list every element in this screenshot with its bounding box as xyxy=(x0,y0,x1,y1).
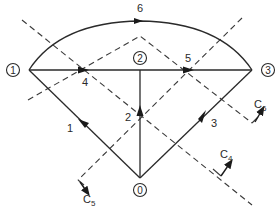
svg-text:3: 3 xyxy=(265,65,271,76)
edge-label-4: 4 xyxy=(82,76,88,88)
edge-label-5: 5 xyxy=(185,52,191,64)
edge-2 xyxy=(137,70,144,178)
svg-text:1: 1 xyxy=(10,65,16,76)
edge-5 xyxy=(140,67,252,74)
cut-label-c4: C4 xyxy=(220,148,233,163)
cut-c4 xyxy=(22,20,252,205)
cut-label-c6: C6 xyxy=(254,98,267,113)
node-1: 1 xyxy=(7,64,20,77)
edge-label-1: 1 xyxy=(67,122,73,134)
svg-text:0: 0 xyxy=(137,185,143,196)
node-3: 3 xyxy=(262,64,275,77)
edge-label-2: 2 xyxy=(125,111,131,123)
cut-c5 xyxy=(78,18,242,192)
node-0: 0 xyxy=(134,184,147,197)
node-2: 2 xyxy=(134,52,147,65)
svg-text:2: 2 xyxy=(137,53,143,64)
cut-label-c5: C5 xyxy=(83,193,96,208)
edge-label-6: 6 xyxy=(137,2,143,14)
edge-label-3: 3 xyxy=(211,117,217,129)
network-diagram: 1 2 3 0 6 4 5 2 1 3 C6 C4 C5 xyxy=(0,0,279,211)
edge-3 xyxy=(140,70,252,178)
cut-c6 xyxy=(28,36,262,123)
